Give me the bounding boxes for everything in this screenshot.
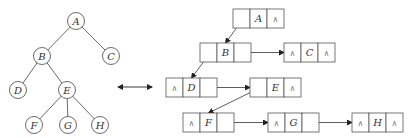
linked-node-G: ∧G bbox=[268, 113, 319, 132]
tree-edge-E-F bbox=[40, 96, 61, 119]
node-data: D bbox=[186, 82, 195, 93]
tree-node-label: A bbox=[71, 16, 79, 27]
linked-node-E: E∧ bbox=[250, 78, 301, 97]
node-data: F bbox=[204, 117, 213, 128]
null-pointer-icon: ∧ bbox=[290, 49, 296, 58]
cell-left bbox=[200, 43, 217, 62]
tree-node-label: D bbox=[13, 85, 22, 96]
tree-node-C: C bbox=[103, 48, 120, 65]
tree-node-label: F bbox=[30, 120, 39, 131]
tree-edge-A-B bbox=[48, 27, 70, 50]
null-pointer-icon: ∧ bbox=[290, 84, 296, 93]
tree-node-D: D bbox=[10, 82, 27, 99]
null-pointer-icon: ∧ bbox=[273, 15, 279, 24]
node-data: C bbox=[306, 47, 314, 58]
tree-edge-B-D bbox=[23, 63, 37, 83]
linked-node-A: A∧ bbox=[233, 9, 284, 28]
node-data: G bbox=[290, 117, 298, 128]
linked-node-B: B bbox=[200, 43, 251, 62]
tree-node-label: E bbox=[62, 85, 71, 96]
tree-edge-E-G bbox=[67, 98, 68, 116]
link-pointers bbox=[192, 19, 353, 123]
tree-node-label: G bbox=[64, 120, 72, 131]
tree-edge-E-H bbox=[73, 96, 94, 119]
node-data: E bbox=[271, 82, 280, 93]
linked-node-F: ∧F bbox=[183, 113, 234, 132]
linked-node-H: ∧H∧ bbox=[352, 113, 403, 132]
tree-node-H: H bbox=[92, 117, 109, 134]
cell-right bbox=[234, 43, 251, 62]
null-pointer-icon: ∧ bbox=[358, 119, 364, 128]
tree-node-E: E bbox=[59, 82, 76, 99]
cell-right bbox=[217, 113, 234, 132]
tree-edges bbox=[23, 27, 105, 119]
node-data: B bbox=[221, 47, 229, 58]
cell-left bbox=[250, 78, 267, 97]
linked-node-D: ∧D bbox=[166, 78, 217, 97]
tree-edge-A-C bbox=[82, 27, 105, 50]
tree-node-B: B bbox=[34, 48, 51, 65]
binary-tree-diagram: ABCDEFGH A∧B∧C∧∧DE∧∧F∧G∧H∧ bbox=[0, 0, 411, 138]
null-pointer-icon: ∧ bbox=[324, 49, 330, 58]
null-pointer-icon: ∧ bbox=[274, 119, 280, 128]
linked-node-C: ∧C∧ bbox=[284, 43, 335, 62]
null-pointer-icon: ∧ bbox=[189, 119, 195, 128]
node-data: A bbox=[254, 13, 262, 24]
tree-node-label: H bbox=[95, 120, 105, 131]
cell-right bbox=[302, 113, 319, 132]
null-pointer-icon: ∧ bbox=[392, 119, 398, 128]
tree-node-label: B bbox=[37, 51, 45, 62]
node-data: H bbox=[372, 117, 382, 128]
cell-left bbox=[233, 9, 250, 28]
tree-node-A: A bbox=[68, 13, 85, 30]
tree-edge-B-E bbox=[47, 63, 62, 83]
tree-nodes: ABCDEFGH bbox=[10, 13, 120, 134]
cell-right bbox=[200, 78, 217, 97]
tree-node-G: G bbox=[60, 117, 77, 134]
tree-node-F: F bbox=[26, 117, 43, 134]
null-pointer-icon: ∧ bbox=[172, 84, 178, 93]
tree-node-label: C bbox=[107, 51, 115, 62]
linked-nodes: A∧B∧C∧∧DE∧∧F∧G∧H∧ bbox=[166, 9, 403, 132]
